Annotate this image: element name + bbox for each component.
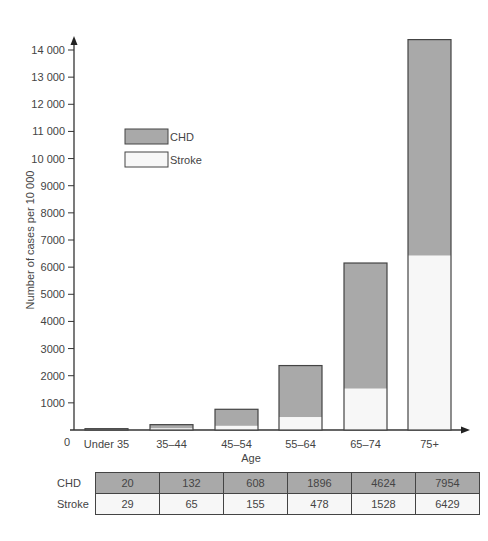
legend-label-chd: CHD bbox=[170, 131, 194, 143]
stacked-bar-chart: 10002000300040005000600070008000900010 0… bbox=[0, 0, 488, 470]
y-axis-title: Number of cases per 10 000 bbox=[24, 171, 36, 310]
x-category-labels: Under 3535–4445–5455–6465–7475+ bbox=[84, 438, 439, 450]
row-label: Stroke bbox=[57, 494, 96, 515]
y-tick-label: 7000 bbox=[41, 234, 65, 246]
table-cell: 29 bbox=[96, 494, 160, 515]
bars bbox=[85, 40, 451, 430]
row-label: CHD bbox=[57, 473, 96, 494]
y-tick-label: 14 000 bbox=[31, 44, 65, 56]
table-cell: 1528 bbox=[352, 494, 416, 515]
y-tick-label: 11 000 bbox=[32, 125, 65, 137]
origin-label: 0 bbox=[64, 436, 70, 448]
legend-swatch-chd bbox=[125, 129, 168, 144]
table-cell: 6429 bbox=[416, 494, 480, 515]
table-cell: 7954 bbox=[416, 473, 480, 494]
table-cell: 478 bbox=[288, 494, 352, 515]
table-cell: 608 bbox=[224, 473, 288, 494]
y-tick-label: 9000 bbox=[41, 180, 65, 192]
x-category-label: 45–54 bbox=[221, 438, 252, 450]
table-cell: 4624 bbox=[352, 473, 416, 494]
x-category-label: 35–44 bbox=[156, 438, 187, 450]
table-row-chd: CHD 20 132 608 1896 4624 7954 bbox=[57, 473, 480, 494]
table-cell: 20 bbox=[96, 473, 160, 494]
y-tick-label: 1000 bbox=[41, 397, 65, 409]
table-cell: 155 bbox=[224, 494, 288, 515]
x-category-label: 55–64 bbox=[285, 438, 316, 450]
y-tick-label: 6000 bbox=[41, 261, 65, 273]
bar-segment-stroke bbox=[215, 426, 258, 430]
x-category-label: 75+ bbox=[420, 438, 439, 450]
legend: CHD Stroke bbox=[125, 129, 202, 167]
x-axis-arrow-icon bbox=[461, 427, 470, 434]
bar-segment-chd bbox=[408, 40, 451, 256]
data-table: CHD 20 132 608 1896 4624 7954 Stroke 29 … bbox=[57, 472, 480, 515]
bar-segment-chd bbox=[279, 366, 322, 417]
y-tick-label: 13 000 bbox=[31, 71, 65, 83]
bar-segment-stroke bbox=[279, 417, 322, 430]
legend-label-stroke: Stroke bbox=[170, 154, 202, 166]
y-tick-label: 12 000 bbox=[31, 98, 65, 110]
legend-swatch-stroke bbox=[125, 152, 168, 167]
y-ticks: 10002000300040005000600070008000900010 0… bbox=[31, 44, 74, 409]
y-tick-label: 3000 bbox=[41, 343, 65, 355]
bar-segment-chd bbox=[344, 263, 387, 389]
y-tick-label: 4000 bbox=[41, 315, 65, 327]
x-axis-title: Age bbox=[241, 452, 261, 464]
y-tick-label: 8000 bbox=[41, 207, 65, 219]
y-tick-label: 10 000 bbox=[31, 153, 65, 165]
x-category-label: 65–74 bbox=[350, 438, 381, 450]
y-axis-arrow-icon bbox=[71, 36, 78, 45]
table-cell: 1896 bbox=[288, 473, 352, 494]
table-cell: 65 bbox=[160, 494, 224, 515]
y-tick-label: 5000 bbox=[41, 288, 65, 300]
table-row-stroke: Stroke 29 65 155 478 1528 6429 bbox=[57, 494, 480, 515]
bar-segment-chd bbox=[215, 409, 258, 426]
bar-segment-stroke bbox=[344, 389, 387, 430]
bar-segment-stroke bbox=[408, 255, 451, 430]
x-category-label: Under 35 bbox=[84, 438, 129, 450]
y-tick-label: 2000 bbox=[41, 370, 65, 382]
table-cell: 132 bbox=[160, 473, 224, 494]
